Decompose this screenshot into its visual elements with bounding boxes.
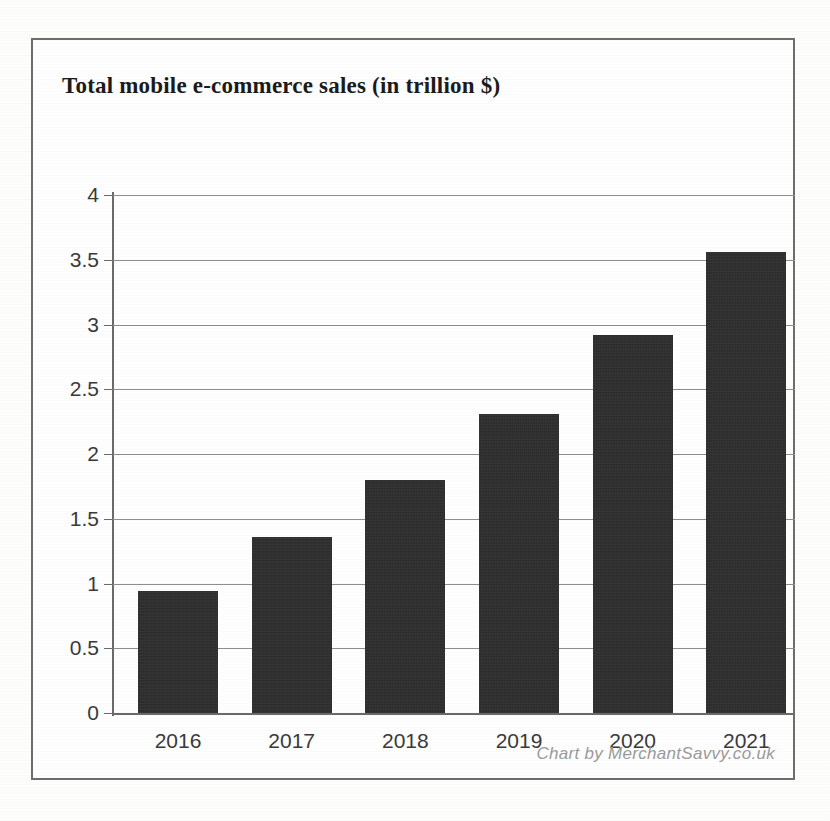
plot-area: 00.511.522.533.54 2016201720182019202020…: [113, 195, 795, 713]
y-tick-label: 3.5: [70, 248, 99, 272]
scanned-page: Total mobile e-commerce sales (in trilli…: [0, 0, 830, 821]
y-tick-label: 0: [87, 701, 99, 725]
y-tick-mark: [104, 195, 113, 196]
bar: [138, 591, 218, 713]
x-axis-line: [113, 713, 795, 715]
y-tick-label: 2: [87, 442, 99, 466]
y-tick-mark: [104, 454, 113, 455]
bar: [252, 537, 332, 713]
x-tick-label: 2016: [155, 729, 202, 753]
x-tick-label: 2017: [268, 729, 315, 753]
x-tick-label: 2019: [496, 729, 543, 753]
bar: [593, 335, 673, 713]
bars-group: [113, 195, 795, 713]
attribution-label: Chart by MerchantSavvy.co.uk: [536, 744, 775, 764]
y-tick-label: 2.5: [70, 377, 99, 401]
y-tick-mark: [104, 325, 113, 326]
y-tick-mark: [104, 389, 113, 390]
y-tick-label: 1: [87, 572, 99, 596]
y-tick-label: 0.5: [70, 636, 99, 660]
bar: [706, 252, 786, 713]
chart-frame: Total mobile e-commerce sales (in trilli…: [31, 38, 795, 780]
bar: [365, 480, 445, 713]
y-tick-label: 4: [87, 183, 99, 207]
y-tick-mark: [104, 260, 113, 261]
y-tick-label: 1.5: [70, 507, 99, 531]
y-tick-mark: [104, 584, 113, 585]
y-tick-label: 3: [87, 313, 99, 337]
y-tick-mark: [104, 648, 113, 649]
y-tick-mark: [104, 519, 113, 520]
x-tick-label: 2018: [382, 729, 429, 753]
bar: [479, 414, 559, 713]
y-tick-mark: [104, 713, 113, 714]
chart-title: Total mobile e-commerce sales (in trilli…: [62, 73, 500, 99]
